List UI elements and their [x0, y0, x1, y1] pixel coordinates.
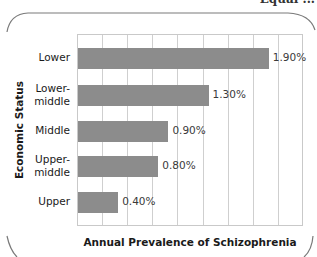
plot-area: 1.90%1.30%0.90%0.80%0.40% [77, 34, 303, 226]
value-label: 0.90% [172, 120, 205, 141]
bar-middle [78, 121, 168, 142]
x-axis-title: Annual Prevalence of Schizophrenia [77, 236, 303, 248]
value-label: 0.80% [162, 155, 195, 176]
value-label: 0.40% [122, 191, 155, 212]
category-label: Upper [38, 195, 70, 208]
bar-lower [78, 48, 269, 69]
y-axis-title: Economic Status [13, 81, 25, 179]
value-label: 1.90% [273, 47, 306, 68]
bar-lower-middle [78, 85, 209, 106]
category-label: Upper-middle [34, 153, 70, 179]
bar-upper [78, 192, 118, 213]
category-label: Lower-middle [34, 82, 70, 108]
category-label: Lower [39, 51, 70, 64]
category-label: Middle [35, 124, 70, 137]
bar-upper-middle [78, 156, 158, 177]
value-label: 1.30% [213, 84, 246, 105]
